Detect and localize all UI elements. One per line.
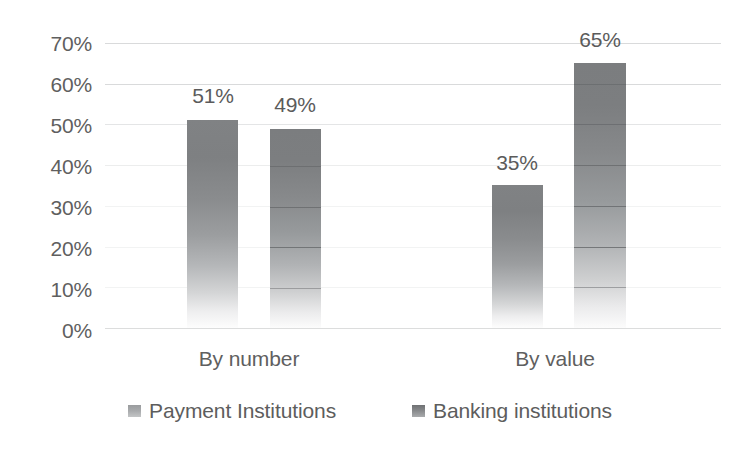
legend-swatch-banking-icon <box>412 405 425 417</box>
bar-fill <box>574 63 626 328</box>
x-axis-label-by-value: By value <box>481 347 629 371</box>
bar-by-number-payment-institutions[interactable] <box>187 120 238 328</box>
bar-chart: 70% 60% 50% 40% 30% 20% 10% 0% <box>0 0 745 457</box>
bar-gridline-overlay-40 <box>574 165 626 166</box>
bar-gridline-overlay-60 <box>574 84 626 85</box>
legend-item-payment-institutions[interactable]: Payment Institutions <box>128 399 336 423</box>
bar-gridline-overlay-20 <box>574 247 626 248</box>
bar-gridline-overlay-30 <box>270 207 321 208</box>
y-axis: 70% 60% 50% 40% 30% 20% 10% 0% <box>0 43 92 328</box>
bar-by-value-banking-institutions[interactable] <box>574 63 626 328</box>
legend: Payment Institutions Banking institution… <box>0 399 745 433</box>
bar-fill <box>492 185 543 328</box>
legend-label-banking-institutions: Banking institutions <box>433 399 612 423</box>
bar-gridline-overlay-10 <box>574 287 626 288</box>
bar-gridline-overlay-30 <box>574 206 626 207</box>
bar-by-value-payment-institutions[interactable] <box>492 185 543 328</box>
y-axis-tick-0: 0% <box>8 320 92 341</box>
bar-by-number-banking-institutions[interactable] <box>270 129 321 328</box>
bar-gridline-overlay-20 <box>270 247 321 248</box>
y-axis-tick-40: 40% <box>8 156 92 177</box>
bar-gridline-overlay-40 <box>270 166 321 167</box>
bar-gridline-overlay-10 <box>270 288 321 289</box>
x-axis-label-by-number: By number <box>175 347 323 371</box>
y-axis-tick-60: 60% <box>8 74 92 95</box>
bar-gridline-overlay-50 <box>574 124 626 125</box>
data-label-by-value-banking-institutions: 65% <box>544 29 656 50</box>
y-axis-tick-30: 30% <box>8 197 92 218</box>
y-axis-tick-50: 50% <box>8 115 92 136</box>
y-axis-tick-10: 10% <box>8 279 92 300</box>
legend-label-payment-institutions: Payment Institutions <box>149 399 336 423</box>
y-axis-tick-20: 20% <box>8 238 92 259</box>
legend-swatch-payment-icon <box>128 405 141 417</box>
bar-fill <box>270 129 321 328</box>
gridline-0 <box>105 328 721 329</box>
legend-item-banking-institutions[interactable]: Banking institutions <box>412 399 612 423</box>
y-axis-tick-70: 70% <box>8 33 92 54</box>
data-label-by-number-banking-institutions: 49% <box>239 94 351 115</box>
data-label-by-value-payment-institutions: 35% <box>461 152 573 173</box>
bar-fill <box>187 120 238 328</box>
